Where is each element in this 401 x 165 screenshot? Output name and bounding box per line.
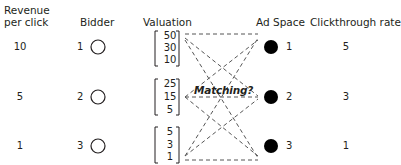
valuation-bracket-3-icon	[155, 127, 179, 163]
matching-label: Matching?	[194, 84, 253, 96]
bidder-node-3-icon	[91, 139, 105, 153]
bidder-node-1-icon	[91, 40, 105, 54]
matching-edges	[185, 34, 258, 160]
valuation-bracket-2-icon	[155, 79, 179, 115]
ad-space-node-2-icon	[264, 90, 278, 104]
ad-space-node-1-icon	[264, 40, 278, 54]
bidder-node-2-icon	[91, 90, 105, 104]
ad-space-node-3-icon	[264, 139, 278, 153]
valuation-bracket-1-icon	[155, 31, 179, 66]
